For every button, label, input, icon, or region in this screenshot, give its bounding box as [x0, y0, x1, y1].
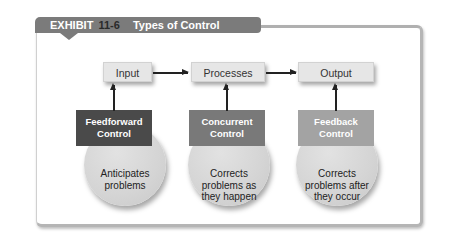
exhibit-number: 11-6	[98, 19, 119, 31]
arrow-right-icon	[266, 72, 296, 74]
control-description: Corrects problems after they occur	[296, 168, 378, 203]
stage-input: Input	[103, 62, 152, 82]
exhibit-label: EXHIBIT	[50, 19, 93, 31]
control-description: Corrects problems as they happen	[188, 168, 270, 203]
control-label-feedback: FeedbackControl	[298, 110, 374, 146]
stage-processes: Processes	[191, 62, 265, 82]
stage-output: Output	[298, 62, 374, 82]
arrow-up-icon	[226, 85, 228, 111]
control-label-feedforward: FeedforwardControl	[76, 110, 152, 146]
control-label-concurrent: ConcurrentControl	[189, 110, 265, 146]
tab-pointer-icon	[60, 33, 78, 40]
exhibit-title: Types of Control	[133, 19, 220, 31]
arrow-up-icon	[335, 85, 337, 111]
arrow-right-icon	[153, 72, 188, 74]
exhibit-title-tab: EXHIBIT 11-6 Types of Control	[35, 17, 261, 33]
arrow-up-icon	[113, 85, 115, 111]
control-description: Anticipates problems	[84, 168, 166, 191]
